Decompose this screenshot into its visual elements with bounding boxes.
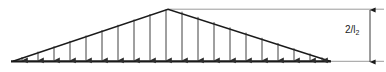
load-diagram: 2/l2 — [0, 0, 386, 72]
dimension-label-main: 2/l — [345, 24, 356, 35]
diagram-canvas — [0, 0, 386, 72]
triangular-load-outline — [13, 9, 330, 61]
load-arrow-group — [22, 9, 322, 60]
dimension-label: 2/l2 — [345, 25, 359, 36]
dimension-label-subscript: 2 — [356, 29, 360, 36]
